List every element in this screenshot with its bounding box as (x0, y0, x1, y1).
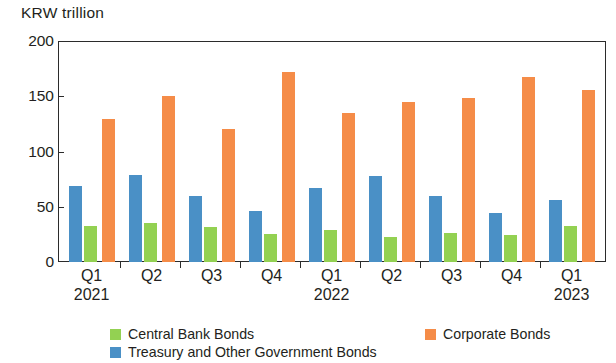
bar-treasury (189, 196, 202, 262)
x-tick-mark (360, 262, 361, 268)
legend-swatch-treasury-bonds (110, 347, 121, 358)
y-axis-unit-label: KRW trillion (21, 4, 104, 22)
bar-corporate (282, 72, 295, 262)
legend-item-corporate-bonds: Corporate Bonds (425, 326, 550, 342)
x-tick-year: 2023 (542, 287, 602, 304)
x-tick-label: Q3 (422, 268, 482, 285)
bar-corporate (402, 102, 415, 262)
bar-treasury (429, 196, 442, 262)
bar-group (249, 41, 295, 262)
y-tick-label-0: 0 (8, 254, 54, 270)
x-tick-quarter: Q1 (81, 267, 102, 284)
legend-label-treasury-bonds: Treasury and Other Government Bonds (128, 344, 377, 360)
bar-central (444, 233, 457, 262)
legend-label-central-bank-bonds: Central Bank Bonds (128, 326, 254, 342)
bar-central (564, 226, 577, 262)
bar-central (384, 237, 397, 262)
x-tick-quarter: Q1 (321, 267, 342, 284)
legend-swatch-central-bank-bonds (110, 329, 121, 340)
y-tick-label-150: 150 (8, 88, 54, 104)
bar-corporate (162, 96, 175, 262)
legend-swatch-corporate-bonds (425, 329, 436, 340)
bar-central (324, 230, 337, 262)
bar-corporate (102, 119, 115, 262)
x-tick-label: Q12021 (62, 268, 122, 304)
x-tick-label: Q2 (362, 268, 422, 285)
x-tick-quarter: Q3 (201, 267, 222, 284)
bar-corporate (582, 90, 595, 262)
bar-group (189, 41, 235, 262)
chart-legend: Central Bank Bonds Corporate Bonds Treas… (110, 326, 610, 362)
bar-treasury (549, 200, 562, 262)
x-tick-label: Q12022 (302, 268, 362, 304)
x-tick-mark (180, 262, 181, 268)
bar-group (429, 41, 475, 262)
x-tick-mark (480, 262, 481, 268)
x-tick-quarter: Q1 (561, 267, 582, 284)
x-tick-label: Q12023 (542, 268, 602, 304)
x-tick-quarter: Q3 (441, 267, 462, 284)
legend-label-corporate-bonds: Corporate Bonds (443, 326, 550, 342)
x-tick-mark (420, 262, 421, 268)
y-tick-label-200: 200 (8, 33, 54, 49)
x-tick-mark (120, 262, 121, 268)
bar-group (549, 41, 595, 262)
bar-treasury (309, 188, 322, 262)
x-tick-mark (240, 262, 241, 268)
x-tick-quarter: Q2 (141, 267, 162, 284)
bar-central (144, 223, 157, 262)
bar-treasury (489, 213, 502, 262)
x-tick-quarter: Q4 (501, 267, 522, 284)
bar-series-layer (60, 41, 606, 262)
bar-group (129, 41, 175, 262)
bar-central (84, 226, 97, 262)
bar-central (204, 227, 217, 262)
x-tick-year: 2022 (302, 287, 362, 304)
x-tick-mark (540, 262, 541, 268)
bar-corporate (342, 113, 355, 262)
bar-group (489, 41, 535, 262)
bar-group (69, 41, 115, 262)
bar-group (309, 41, 355, 262)
bar-central (504, 235, 517, 262)
x-tick-quarter: Q2 (381, 267, 402, 284)
bar-corporate (522, 77, 535, 262)
bar-treasury (69, 186, 82, 262)
x-tick-year: 2021 (62, 287, 122, 304)
x-tick-label: Q2 (122, 268, 182, 285)
y-tick-label-100: 100 (8, 144, 54, 160)
x-tick-quarter: Q4 (261, 267, 282, 284)
bar-treasury (249, 211, 262, 262)
legend-item-treasury-bonds: Treasury and Other Government Bonds (110, 344, 377, 360)
legend-item-central-bank-bonds: Central Bank Bonds (110, 326, 254, 342)
bar-treasury (369, 176, 382, 262)
x-tick-label: Q4 (242, 268, 302, 285)
x-tick-label: Q3 (182, 268, 242, 285)
bond-issuance-bar-chart: KRW trillion 050100150200 Q12021Q2Q3Q4Q1… (0, 0, 616, 363)
x-tick-mark (300, 262, 301, 268)
bar-group (369, 41, 415, 262)
bar-central (264, 234, 277, 262)
y-tick-label-50: 50 (8, 199, 54, 215)
bar-corporate (222, 129, 235, 262)
bar-treasury (129, 175, 142, 262)
x-tick-label: Q4 (482, 268, 542, 285)
bar-corporate (462, 98, 475, 262)
